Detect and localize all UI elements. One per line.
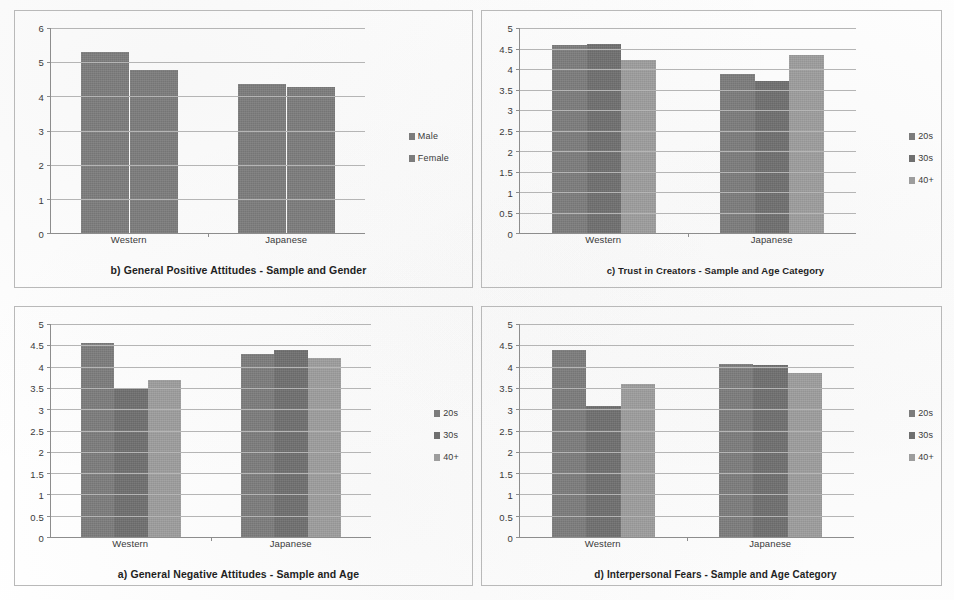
y-tick-label: 1.5 bbox=[30, 468, 44, 479]
legend-c: 20s30s40+ bbox=[909, 131, 934, 185]
legend-item-female: Female bbox=[409, 153, 449, 163]
y-tick-label: 5 bbox=[508, 319, 513, 330]
gridline bbox=[51, 96, 365, 97]
y-tick-label: 4.5 bbox=[499, 43, 513, 54]
y-tick-label: 4 bbox=[39, 361, 44, 372]
y-tick-mark bbox=[47, 28, 51, 29]
gridline bbox=[51, 473, 371, 474]
bar-japanese-40plus bbox=[788, 373, 823, 537]
legend-swatch-icon bbox=[434, 410, 440, 417]
panel-caption-b: b) General Positive Attitudes - Sample a… bbox=[0, 264, 477, 276]
y-tick-label: 3.5 bbox=[499, 383, 513, 394]
y-tick-mark bbox=[47, 409, 51, 410]
gridline bbox=[51, 28, 365, 29]
y-tick-label: 4.5 bbox=[30, 340, 44, 351]
plot-area-a: 00.511.522.533.544.55 bbox=[22, 324, 371, 538]
y-tick-mark bbox=[516, 28, 520, 29]
y-tick-label: 4 bbox=[508, 64, 513, 75]
gridline bbox=[520, 151, 856, 152]
gridline bbox=[520, 28, 856, 29]
y-tick-label: 2.5 bbox=[30, 426, 44, 437]
y-tick-label: 4 bbox=[39, 91, 44, 102]
chart-panel-d: 00.511.522.533.544.55 WesternJapanese 20… bbox=[477, 300, 954, 600]
gridline bbox=[520, 431, 854, 432]
bar-western-female bbox=[130, 70, 179, 233]
y-tick-label: 3.5 bbox=[499, 84, 513, 95]
legend-item-30s: 30s bbox=[909, 430, 934, 440]
legend-label: 20s bbox=[918, 408, 933, 418]
legend-label: 30s bbox=[918, 153, 933, 163]
gridline bbox=[520, 452, 854, 453]
plot-canvas-a bbox=[50, 324, 371, 538]
bar-western-40plus bbox=[148, 380, 181, 537]
y-tick-mark bbox=[516, 90, 520, 91]
y-tick-mark bbox=[516, 516, 520, 517]
y-tick-mark bbox=[47, 96, 51, 97]
y-tick-label: 5 bbox=[508, 23, 513, 34]
legend-swatch-icon bbox=[909, 410, 915, 417]
plot-area-d: 00.511.522.533.544.55 bbox=[491, 324, 854, 538]
bar-japanese-30s bbox=[755, 81, 790, 233]
legend-label: 40+ bbox=[443, 452, 459, 462]
y-tick-mark bbox=[47, 388, 51, 389]
gridline bbox=[51, 409, 371, 410]
legend-label: 20s bbox=[918, 131, 933, 141]
x-axis-label-japanese: Japanese bbox=[270, 538, 312, 549]
bar-japanese-40plus bbox=[308, 358, 341, 537]
y-tick-label: 1.5 bbox=[499, 468, 513, 479]
bar-western-male bbox=[81, 52, 130, 233]
legend-item-40plus: 40+ bbox=[909, 452, 934, 462]
legend-label: 20s bbox=[443, 408, 458, 418]
bar-western-40plus bbox=[621, 384, 656, 537]
chart-panel-a: 00.511.522.533.544.55 WesternJapanese 20… bbox=[0, 300, 477, 600]
y-axis-labels-d: 00.511.522.533.544.55 bbox=[491, 324, 517, 538]
legend-swatch-icon bbox=[909, 155, 915, 162]
y-tick-mark bbox=[516, 110, 520, 111]
bar-japanese-30s bbox=[274, 350, 307, 537]
legend-label: Male bbox=[418, 131, 438, 141]
y-tick-mark bbox=[47, 165, 51, 166]
legend-swatch-icon bbox=[909, 177, 915, 184]
bar-western-30s bbox=[114, 388, 147, 537]
gridline bbox=[520, 409, 854, 410]
x-axis-label-western: Western bbox=[111, 234, 147, 245]
gridline bbox=[520, 192, 856, 193]
y-tick-mark bbox=[516, 49, 520, 50]
legend-swatch-icon bbox=[434, 432, 440, 439]
gridline bbox=[520, 367, 854, 368]
gridline bbox=[51, 345, 371, 346]
chart-panel-b: 0123456 WesternJapanese MaleFemale b) Ge… bbox=[0, 0, 477, 300]
legend-label: 40+ bbox=[918, 175, 934, 185]
y-axis-labels-c: 00.511.522.533.544.55 bbox=[491, 28, 517, 234]
gridline bbox=[520, 90, 856, 91]
gridline bbox=[51, 388, 371, 389]
gridline bbox=[520, 324, 854, 325]
legend-swatch-icon bbox=[909, 432, 915, 439]
y-tick-label: 1 bbox=[39, 194, 44, 205]
legend-item-30s: 30s bbox=[434, 430, 459, 440]
y-tick-mark bbox=[47, 494, 51, 495]
legend-item-30s: 30s bbox=[909, 153, 934, 163]
y-tick-label: 4 bbox=[508, 361, 513, 372]
y-tick-label: 3 bbox=[39, 126, 44, 137]
gridline bbox=[520, 131, 856, 132]
plot-area-b: 0123456 bbox=[22, 28, 365, 234]
legend-label: Female bbox=[418, 153, 449, 163]
gridline bbox=[520, 345, 854, 346]
y-tick-label: 6 bbox=[39, 23, 44, 34]
y-tick-mark bbox=[516, 151, 520, 152]
y-tick-label: 2.5 bbox=[499, 426, 513, 437]
bar-japanese-20s bbox=[719, 364, 754, 537]
bar-western-20s bbox=[552, 45, 587, 233]
bar-japanese-female bbox=[287, 87, 336, 233]
y-tick-mark bbox=[516, 213, 520, 214]
y-tick-label: 2 bbox=[39, 160, 44, 171]
x-axis-labels-c: WesternJapanese bbox=[519, 234, 856, 250]
y-tick-label: 0 bbox=[508, 533, 513, 544]
y-tick-label: 3 bbox=[508, 404, 513, 415]
y-tick-label: 2.5 bbox=[499, 126, 513, 137]
y-tick-label: 2 bbox=[39, 447, 44, 458]
x-axis-label-western: Western bbox=[585, 234, 621, 245]
plot-canvas-c bbox=[519, 28, 856, 234]
y-axis-labels-b: 0123456 bbox=[22, 28, 48, 234]
